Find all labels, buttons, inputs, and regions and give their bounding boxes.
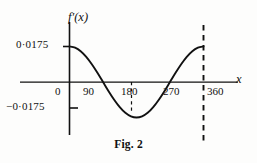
figure-caption: Fig. 2 [0,139,257,151]
origin-label: 0 [55,86,61,97]
x-axis-title: x [236,73,242,86]
figure-container: f′(x) x 0·0175 −0·0175 0 90 180 270 360 … [0,0,257,163]
y-tick-label-positive: 0·0175 [16,39,48,50]
x-tick-label-270: 270 [163,86,180,97]
y-tick-label-negative: −0·0175 [6,101,45,112]
x-tick-label-360: 360 [207,86,224,97]
x-tick-label-180: 180 [121,86,138,97]
x-tick-label-90: 90 [83,86,94,97]
y-axis-title: f′(x) [68,11,88,24]
